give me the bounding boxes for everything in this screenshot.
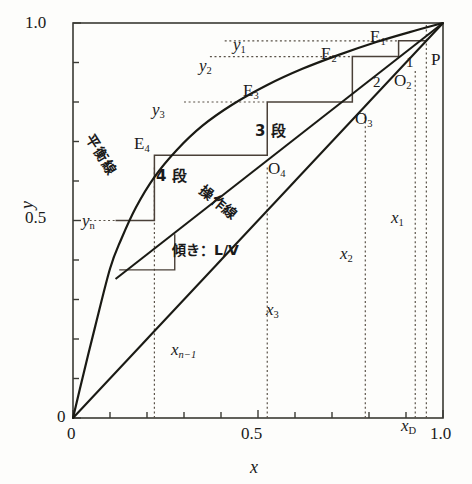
slope-label: 傾き：L/V <box>172 243 239 257</box>
y-value-label-y1: y1 <box>233 36 246 55</box>
point-label-E3: E3 <box>243 82 259 101</box>
point-label-E2: E2 <box>321 45 337 64</box>
y-tick-label-0: 0 <box>57 408 66 425</box>
x-value-label-x2: x2 <box>340 245 353 264</box>
y-tick-label-0.5: 0.5 <box>25 209 46 226</box>
y-value-label-y3: y3 <box>152 101 165 120</box>
x-axis-title: x <box>250 458 258 476</box>
point-label-O3: O3 <box>355 110 373 129</box>
point-label-O2: O2 <box>394 72 412 91</box>
point-label-E1: E1 <box>370 28 386 47</box>
y-tick-label-1.0: 1.0 <box>25 14 46 31</box>
point-label-P: P <box>431 51 440 68</box>
x-value-label-xD: xD <box>401 417 416 436</box>
operating-line <box>116 23 443 279</box>
figure-root: 1.0 0.5 0 0 0.5 1.0 x y 平衡線 操作線 傾き：L/V 3… <box>0 0 472 484</box>
stage-label-3: 3 段 <box>255 124 286 139</box>
x-value-label-x1: x1 <box>391 209 404 228</box>
y-value-label-y2: y2 <box>199 57 212 76</box>
y-value-label-yn: yn <box>82 212 95 231</box>
stage-number-1: 1 <box>406 55 414 70</box>
point-label-O4: O4 <box>268 160 286 179</box>
point-label-E4: E4 <box>134 135 150 154</box>
x-tick-label-0: 0 <box>67 425 76 442</box>
x-value-label-xn-1: xn−1 <box>171 341 196 360</box>
x-value-label-x3: x3 <box>266 301 279 320</box>
stage-number-2: 2 <box>373 75 381 90</box>
operating-line-path <box>116 23 443 279</box>
y-axis-title: y <box>18 201 36 209</box>
x-tick-label-0.5: 0.5 <box>241 425 262 442</box>
x-tick-label-1.0: 1.0 <box>430 425 451 442</box>
stage-label-4: 4 段 <box>156 169 187 184</box>
